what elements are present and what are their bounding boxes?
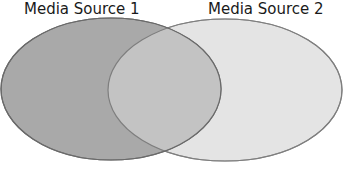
venn-diagram [0, 0, 345, 169]
